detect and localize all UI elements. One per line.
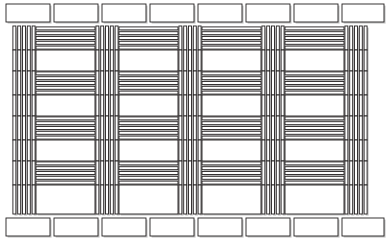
cell-r7-c8-vertical-band-line-4: [359, 185, 362, 214]
cell-r2-c1-horizontal-band-line-1: [36, 72, 95, 75]
cell-r4-c6-cross-vertical-line-5: [281, 116, 284, 140]
cell-r1-c4-vertical-band: [179, 50, 203, 73]
cell-r5-c7-plain-square: [285, 140, 344, 161]
cell-r6-c8-cross-vertical: [345, 161, 369, 187]
cell-r2-c5-horizontal-band-line-1: [202, 72, 261, 75]
cell-r0-c5-horizontal-band-line-3: [202, 37, 261, 40]
cell-r5-c4-vertical-band-line-3: [189, 140, 192, 161]
cell-r1-c3-plain-square: [119, 50, 178, 71]
cell-r7-c2-vertical-band-line-2: [101, 185, 104, 214]
cell-r0-c0-cross-vertical-line-5: [32, 26, 35, 50]
cell-r0-c5-horizontal-band-line-4: [202, 41, 261, 44]
cell-r4-c8-cross-vertical-line-2: [350, 116, 353, 140]
cell-r0-c0-cross-vertical: [13, 26, 37, 52]
cell-r3-c7-plain-square: [285, 95, 344, 116]
cell-r6-c1-horizontal-band-line-4: [36, 176, 95, 179]
cell-r3-c8-vertical-band-line-1: [345, 95, 348, 116]
cell-r4-c1-horizontal-band-line-3: [36, 127, 95, 130]
cell-r5-c4-vertical-band-line-5: [198, 140, 201, 161]
cell-r5-c0-vertical-band-line-2: [18, 140, 21, 161]
cell-r1-c2-vertical-band-line-5: [115, 50, 118, 71]
cell-r3-c4-vertical-band-line-3: [189, 95, 192, 116]
cell-r2-c3-horizontal-band-line-5: [119, 91, 178, 94]
cell-r6-c8-cross-vertical-line-5: [364, 161, 367, 185]
border-top-tile-6: [246, 4, 290, 22]
cell-r7-c4-vertical-band-line-4: [193, 185, 196, 214]
cell-r6-c7-horizontal-band: [285, 162, 346, 186]
cell-r1-c6-vertical-band-line-1: [262, 50, 265, 71]
cell-r4-c8-cross-vertical-line-5: [364, 116, 367, 140]
cell-r6-c6-cross-vertical-line-3: [272, 161, 275, 185]
cell-r4-c8-cross-vertical-line-1: [345, 116, 348, 140]
cell-r2-c8-cross-vertical-line-4: [359, 71, 362, 95]
cell-r2-c0-cross-vertical: [13, 71, 37, 97]
cell-r0-c8-cross-vertical-line-3: [355, 26, 358, 50]
cell-r6-c7-horizontal-band-line-2: [285, 167, 344, 170]
cell-r0-c7-horizontal-band-line-4: [285, 41, 344, 44]
cell-r2-c0-cross-vertical-line-5: [32, 71, 35, 95]
cell-r3-c8-vertical-band-line-5: [364, 95, 367, 116]
cell-r4-c6-cross-vertical: [262, 116, 286, 142]
cell-r1-c0-vertical-band-line-1: [13, 50, 16, 71]
cell-r4-c5-horizontal-band-line-5: [202, 136, 261, 139]
cell-r4-c7-horizontal-band-line-3: [285, 127, 344, 130]
cell-r2-c0-cross-vertical-line-1: [13, 71, 16, 95]
cell-r5-c8-vertical-band-line-3: [355, 140, 358, 161]
border-bottom-tile-1: [6, 218, 50, 236]
cell-r7-c0-vertical-band-line-3: [23, 185, 26, 214]
pattern-svg: [0, 0, 389, 240]
cell-r4-c5-horizontal-band-line-4: [202, 131, 261, 134]
border-top-tile-2: [54, 4, 98, 22]
cell-r4-c0-cross-vertical-line-5: [32, 116, 35, 140]
border-top-tile-7: [294, 4, 338, 22]
cell-r5-c6-vertical-band-line-4: [276, 140, 279, 161]
cell-r0-c7-horizontal-band-line-2: [285, 32, 344, 35]
cell-r5-c8-vertical-band-line-4: [359, 140, 362, 161]
cell-r0-c4-cross-vertical-line-3: [189, 26, 192, 50]
cell-r6-c5-horizontal-band-line-3: [202, 172, 261, 175]
cell-r0-c2-cross-vertical: [96, 26, 120, 52]
cell-r4-c4-cross-vertical-line-5: [198, 116, 201, 140]
cell-r5-c2-vertical-band-line-5: [115, 140, 118, 161]
cell-r0-c1-horizontal-band-line-1: [36, 27, 95, 30]
cell-r6-c8-cross-vertical-line-2: [350, 161, 353, 185]
cell-r7-c4-vertical-band-line-3: [189, 185, 192, 214]
cell-r0-c1-horizontal-band: [36, 27, 97, 51]
cell-r3-c4-vertical-band-line-4: [193, 95, 196, 116]
cell-r5-c2-vertical-band: [96, 140, 120, 163]
cell-r0-c8-cross-vertical-line-4: [359, 26, 362, 50]
cell-r3-c6-vertical-band-line-4: [276, 95, 279, 116]
cell-r0-c8-cross-vertical: [345, 26, 369, 52]
cell-r4-c3-horizontal-band-line-3: [119, 127, 178, 130]
cell-r0-c7-horizontal-band-line-3: [285, 37, 344, 40]
grid-layer: [13, 26, 369, 216]
cell-r2-c2-cross-vertical-line-5: [115, 71, 118, 95]
cell-r5-c0-vertical-band-line-3: [23, 140, 26, 161]
cell-r2-c4-cross-vertical-line-3: [189, 71, 192, 95]
cell-r2-c1-horizontal-band-line-5: [36, 91, 95, 94]
cell-r6-c2-cross-vertical: [96, 161, 120, 187]
cell-r2-c8-cross-vertical-line-5: [364, 71, 367, 95]
cell-r7-c0-vertical-band-line-4: [27, 185, 30, 214]
cell-r4-c5-horizontal-band-line-1: [202, 117, 261, 120]
cell-r1-c0-vertical-band-line-5: [32, 50, 35, 71]
cell-r6-c0-cross-vertical-line-5: [32, 161, 35, 185]
cell-r0-c3-horizontal-band-line-4: [119, 41, 178, 44]
cell-r0-c8-cross-vertical-line-5: [364, 26, 367, 50]
cell-r6-c4-cross-vertical-line-1: [179, 161, 182, 185]
cell-r2-c3-horizontal-band-line-1: [119, 72, 178, 75]
cell-r1-c6-vertical-band-line-4: [276, 50, 279, 71]
cell-r4-c1-horizontal-band: [36, 117, 97, 141]
cell-r2-c6-cross-vertical-line-4: [276, 71, 279, 95]
cell-r1-c8-vertical-band-line-4: [359, 50, 362, 71]
cell-r6-c2-cross-vertical-line-5: [115, 161, 118, 185]
cell-r4-c8-cross-vertical-line-4: [359, 116, 362, 140]
cell-r1-c6-vertical-band-line-2: [267, 50, 270, 71]
cell-r2-c4-cross-vertical-line-2: [184, 71, 187, 95]
cell-r6-c2-cross-vertical-line-3: [106, 161, 109, 185]
cell-r6-c2-cross-vertical-line-1: [96, 161, 99, 185]
cell-r6-c6-cross-vertical-line-2: [267, 161, 270, 185]
cell-r1-c4-vertical-band-line-4: [193, 50, 196, 71]
cell-r4-c0-cross-vertical-line-4: [27, 116, 30, 140]
cell-r3-c1-plain-square: [36, 95, 95, 116]
